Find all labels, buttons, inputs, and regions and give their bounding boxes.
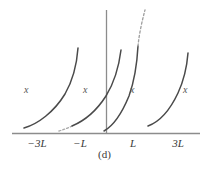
curve-branch-2: [72, 50, 121, 126]
curve-branch-1: [24, 48, 78, 128]
curve-branch-4: [148, 53, 188, 126]
curve-branch-2-dashed-tail: [59, 126, 72, 131]
figure-panel: x x x x −3L −L L 3L (d): [0, 0, 209, 169]
figure-caption: (d): [0, 148, 209, 160]
branch-label-x-3: x: [130, 84, 134, 95]
curve-branch-3-dashed-tail: [138, 10, 145, 46]
branch-label-x-2: x: [83, 84, 87, 95]
branch-label-x-1: x: [24, 84, 28, 95]
branch-label-x-4: x: [183, 84, 187, 95]
